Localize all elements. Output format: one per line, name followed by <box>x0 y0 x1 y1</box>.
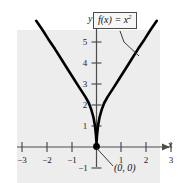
function-callout-text: f(x) = x <box>98 14 128 25</box>
y-tick-label-2: 2 <box>80 101 90 110</box>
x-tick-label-3: 3 <box>165 156 177 165</box>
x-tick-label--2: −2 <box>39 156 55 165</box>
y-tick-label-1: 1 <box>80 122 90 131</box>
y-axis-label: y <box>88 14 92 24</box>
y-tick-label-4: 4 <box>80 59 90 68</box>
y-tick-label--1: −1 <box>76 164 90 173</box>
y-tick-label-5: 5 <box>80 38 90 47</box>
x-tick-label--3: −3 <box>14 156 30 165</box>
graph-figure: −3 −2 −1 1 2 3 5 4 3 2 1 −1 x y f(x) = x… <box>0 0 178 183</box>
origin-point-marker <box>93 143 100 150</box>
origin-annotation-label: (0, 0) <box>114 163 136 173</box>
y-tick-label-3: 3 <box>80 80 90 89</box>
function-callout-box: f(x) = x2 <box>93 12 137 29</box>
x-axis-label: x <box>168 140 172 150</box>
origin-leader-line <box>97 148 114 166</box>
x-tick-label-2: 2 <box>140 156 152 165</box>
function-callout-exponent: 2 <box>128 13 132 21</box>
